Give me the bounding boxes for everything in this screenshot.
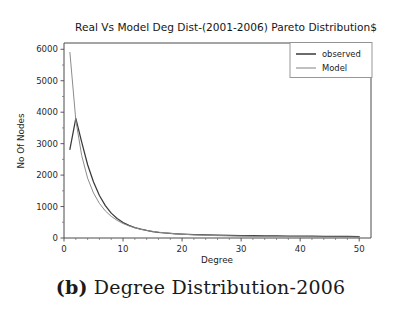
figure-caption: (b) Degree Distribution-2006 <box>0 276 399 298</box>
degree-distribution-chart: Real Vs Model Deg Dist-(2001-2006) Paret… <box>0 0 399 276</box>
y-axis-title: No Of Nodes <box>16 113 26 169</box>
x-tick-label: 20 <box>177 244 188 254</box>
x-tick-label: 10 <box>118 244 129 254</box>
legend-label-observed: observed <box>322 49 361 59</box>
x-tick-label: 0 <box>61 244 66 254</box>
caption-label: (b) <box>56 276 88 298</box>
y-tick-label: 3000 <box>36 139 58 149</box>
x-tick-label: 50 <box>354 244 365 254</box>
y-tick-label: 2000 <box>36 170 58 180</box>
y-tick-label: 1000 <box>36 202 58 212</box>
x-axis-title: Degree <box>201 255 233 265</box>
figure-container: Real Vs Model Deg Dist-(2001-2006) Paret… <box>0 0 399 314</box>
x-tick-label: 40 <box>295 244 306 254</box>
legend-label-model: Model <box>322 63 347 73</box>
chart-legend: observedModel <box>290 43 372 78</box>
y-tick-label: 6000 <box>36 44 58 54</box>
y-tick-label: 4000 <box>36 107 58 117</box>
y-tick-label: 5000 <box>36 76 58 86</box>
y-tick-label: 0 <box>53 233 58 243</box>
x-tick-label: 30 <box>236 244 247 254</box>
caption-text: Degree Distribution-2006 <box>94 276 345 298</box>
chart-title: Real Vs Model Deg Dist-(2001-2006) Paret… <box>75 21 377 33</box>
